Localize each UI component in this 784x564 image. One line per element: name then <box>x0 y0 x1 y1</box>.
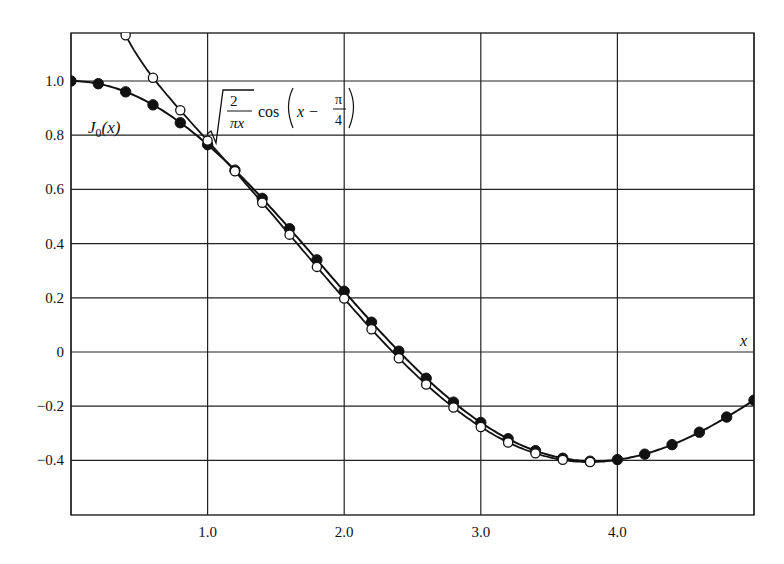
y-tick-label: 0.4 <box>45 236 64 252</box>
y-tick-label: 0.8 <box>45 127 64 143</box>
asymptotic-data-point <box>531 449 540 458</box>
j0-label: J0(x) <box>88 118 121 140</box>
asymptotic-data-point <box>176 106 185 115</box>
asymptotic-data-point <box>258 198 267 207</box>
asymptotic-data-point <box>148 73 157 82</box>
j0-data-point <box>749 395 759 405</box>
x-axis-label: x <box>739 332 747 349</box>
j0-data-point <box>148 100 158 110</box>
x-tick-label: 3.0 <box>471 524 490 540</box>
j0-label-arg: (x) <box>102 118 121 137</box>
j0-data-point <box>721 412 731 422</box>
y-axis-tick-labels: 1.00.80.60.40.20−0.2−0.4 <box>37 73 65 468</box>
j0-data-point <box>120 87 130 97</box>
y-tick-label: 0.6 <box>45 181 64 197</box>
j0-data-point <box>612 454 622 464</box>
plot-border <box>71 33 754 515</box>
asymptotic-data-point <box>449 403 458 412</box>
y-tick-label: 0.2 <box>45 290 64 306</box>
j0-data-point <box>175 118 185 128</box>
asymptotic-data-point <box>230 167 239 176</box>
grid-lines <box>71 33 754 515</box>
x-axis-tick-labels: 1.02.03.04.0 <box>198 524 627 540</box>
x-tick-label: 4.0 <box>608 524 627 540</box>
asymptotic-data-point <box>585 457 594 466</box>
asymptotic-data-point <box>340 294 349 303</box>
formula-right-paren <box>349 88 354 128</box>
asymptotic-data-point <box>504 438 513 447</box>
j0-data-point <box>640 449 650 459</box>
series-curves <box>71 3 754 462</box>
plot-frame <box>71 33 754 515</box>
asymptotic-data-point <box>367 325 376 334</box>
formula-numerator: 2 <box>230 93 238 109</box>
x-tick-label: 1.0 <box>198 524 217 540</box>
series-markers <box>66 31 759 467</box>
j0-curve <box>71 81 754 461</box>
asymptotic-data-point <box>121 31 130 40</box>
asymptotic-data-point <box>476 422 485 431</box>
asymptotic-data-point <box>203 136 212 145</box>
asymptotic-data-point <box>312 262 321 271</box>
j0-data-point <box>66 76 76 86</box>
bessel-chart: 1.00.80.60.40.20−0.2−0.4 1.02.03.04.0 J0… <box>0 0 784 564</box>
formula-four: 4 <box>335 113 342 128</box>
asymptotic-data-point <box>285 230 294 239</box>
formula-x-minus: x − <box>296 103 319 120</box>
formula-cos: cos <box>258 103 279 120</box>
y-tick-label: 1.0 <box>45 73 64 89</box>
formula-denominator: πx <box>230 115 245 131</box>
x-tick-label: 2.0 <box>335 524 354 540</box>
asymptotic-curve <box>112 3 617 462</box>
y-tick-label: −0.4 <box>37 452 65 468</box>
j0-data-point <box>93 79 103 89</box>
y-tick-label: −0.2 <box>37 398 64 414</box>
formula-pi: π <box>335 92 342 107</box>
y-tick-label: 0 <box>57 344 65 360</box>
asymptotic-data-point <box>394 354 403 363</box>
j0-data-point <box>667 439 677 449</box>
formula-left-paren <box>289 88 294 128</box>
j0-data-point <box>694 427 704 437</box>
asymptotic-data-point <box>422 380 431 389</box>
asymptotic-data-point <box>558 455 567 464</box>
